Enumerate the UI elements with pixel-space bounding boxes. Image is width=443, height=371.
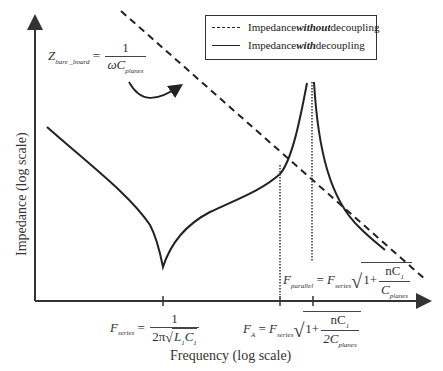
annotation-arrow (129, 82, 180, 98)
solid-line-swatch (212, 45, 240, 46)
z-bare-board-equation: Zbare _board = 1ωCplanes (48, 40, 148, 75)
dashed-line-swatch (212, 27, 240, 28)
f-series-equation: Fseries = 12π√L1C1 (110, 311, 201, 347)
f-parallel-equation: Fparallel = Fseries√1+nC1Cplanes (283, 262, 412, 299)
legend-item-without: Impedance without decoupling (212, 21, 379, 33)
impedance-with-decoupling-curve-right (314, 82, 385, 250)
x-axis-label: Frequency (log scale) (170, 348, 291, 364)
f-a-equation: FA = Fseries√1+nC12Cplanes (243, 311, 361, 348)
impedance-frequency-diagram: Impedance (log scale) Frequency (log sca… (0, 0, 443, 371)
legend-item-with: Impedance with decoupling (212, 39, 365, 51)
y-axis-label: Impedance (log scale) (14, 136, 30, 256)
legend: Impedance without decoupling Impedance w… (205, 15, 377, 60)
impedance-with-decoupling-curve-left (47, 83, 307, 267)
